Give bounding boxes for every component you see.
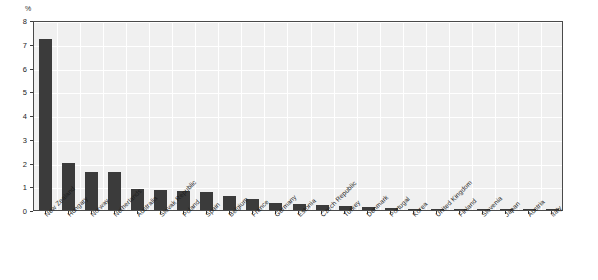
y-axis-tick-label: 1 bbox=[23, 183, 27, 192]
y-axis-tick-label: 7 bbox=[23, 40, 27, 49]
x-axis-labels: New ZealandHungaryNorwayNetherlandsAustr… bbox=[33, 213, 593, 280]
bars-layer bbox=[34, 22, 562, 210]
y-axis-tick-label: 0 bbox=[23, 207, 27, 216]
bar-chart: % 012345678 New ZealandHungaryNorwayNeth… bbox=[0, 0, 598, 280]
y-axis-tick-label: 3 bbox=[23, 135, 27, 144]
y-axis-unit-label: % bbox=[25, 5, 31, 12]
y-axis: 012345678 bbox=[0, 21, 33, 211]
y-axis-tick-label: 6 bbox=[23, 64, 27, 73]
bar bbox=[39, 39, 52, 210]
y-axis-tick-label: 8 bbox=[23, 17, 27, 26]
y-axis-tick-label: 4 bbox=[23, 112, 27, 121]
y-axis-tick-label: 2 bbox=[23, 159, 27, 168]
y-axis-tick-label: 5 bbox=[23, 88, 27, 97]
plot-area bbox=[33, 21, 563, 211]
